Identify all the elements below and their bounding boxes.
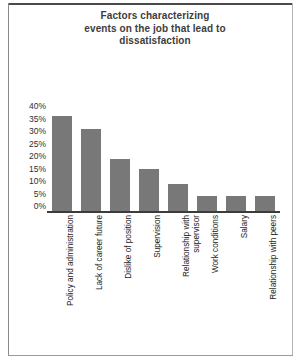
x-axis-tick: Salary xyxy=(240,215,250,355)
bar xyxy=(81,129,101,212)
x-axis-tick-line: supervisor xyxy=(192,215,202,355)
x-axis-tick: Work conditions xyxy=(211,215,221,355)
x-axis-tick: Relationship withsupervisor xyxy=(182,215,201,355)
x-axis-line xyxy=(47,211,280,213)
x-axis-tick: Dislike of position xyxy=(124,215,134,355)
bar xyxy=(255,196,275,211)
y-axis-tick: 10% xyxy=(29,177,46,186)
bar xyxy=(197,196,217,211)
bar-series xyxy=(47,111,280,211)
x-axis-tick: Policy and administration xyxy=(66,215,76,355)
x-axis-tick-line: Salary xyxy=(240,215,249,238)
x-axis-tick: Supervision xyxy=(153,215,163,355)
x-axis-tick-line: Supervision xyxy=(153,215,162,258)
x-axis-tick-line: Policy and administration xyxy=(66,215,75,306)
x-axis-tick: Lack of career future xyxy=(95,215,105,355)
x-axis-tick-line: Relationship with peers xyxy=(269,215,278,300)
bar xyxy=(168,184,188,212)
x-axis-tick-line: Dislike of position xyxy=(124,215,133,279)
bar xyxy=(226,196,246,211)
bar xyxy=(110,159,130,212)
y-axis-tick: 5% xyxy=(34,190,46,199)
y-axis-tick: 35% xyxy=(29,115,46,124)
x-axis-tick-line: Relationship with xyxy=(182,215,191,277)
y-axis-tick-labels: 40%35%30%25%20%15%10%5%0% xyxy=(22,106,46,212)
y-axis-tick: 0% xyxy=(34,202,46,211)
y-axis-tick: 40% xyxy=(29,102,46,111)
plot-area: 40%35%30%25%20%15%10%5%0% Policy and adm… xyxy=(0,0,296,361)
x-axis-tick-line: Work conditions xyxy=(211,215,220,273)
bar xyxy=(139,169,159,212)
bar xyxy=(52,116,72,211)
x-axis-tick: Relationship with peers xyxy=(269,215,279,355)
y-axis-tick: 25% xyxy=(29,140,46,149)
x-axis-tick-labels: Policy and administrationLack of career … xyxy=(47,215,280,355)
x-axis-tick-line: Lack of career future xyxy=(95,215,104,290)
y-axis-tick: 20% xyxy=(29,152,46,161)
chart-figure: Factors characterizing events on the job… xyxy=(0,0,296,361)
y-axis-tick: 30% xyxy=(29,127,46,136)
y-axis-tick: 15% xyxy=(29,165,46,174)
